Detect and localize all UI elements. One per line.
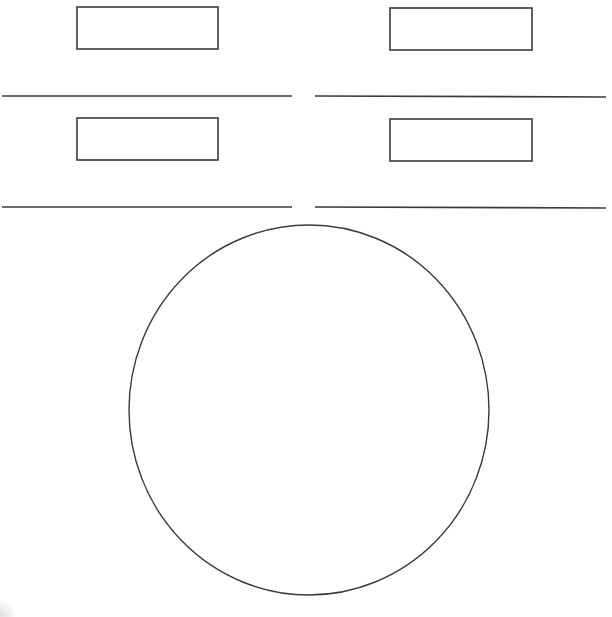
middle-left-box: [77, 118, 218, 160]
top-right-box: [390, 8, 532, 50]
middle-right-box: [390, 119, 532, 161]
diagram-drawing: [0, 0, 612, 617]
large-circle: [129, 225, 489, 595]
lower-right-divider-line: [315, 207, 606, 208]
upper-right-divider-line: [315, 96, 606, 97]
diagram-canvas: [0, 0, 612, 617]
top-left-box: [77, 7, 218, 49]
